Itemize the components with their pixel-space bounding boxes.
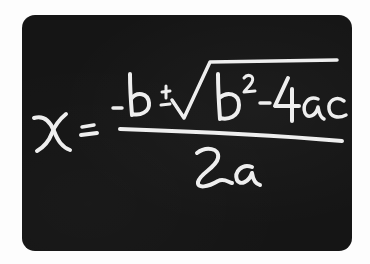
- b-squared: [218, 74, 255, 119]
- variable-x: [34, 114, 70, 151]
- denominator-2a: [197, 149, 260, 187]
- numerator-neg-b: [113, 74, 149, 115]
- fraction-bar: [120, 129, 342, 141]
- equals-sign: [81, 125, 97, 135]
- square-root-sign: [172, 60, 337, 118]
- quadratic-formula-chalk: [22, 15, 352, 251]
- minus-4ac: [260, 78, 346, 121]
- blackboard: x = (-b ± √(b² - 4ac)) / 2a: [22, 15, 352, 251]
- plus-minus-sign: [161, 86, 170, 105]
- image-canvas: x = (-b ± √(b² - 4ac)) / 2a: [0, 0, 370, 264]
